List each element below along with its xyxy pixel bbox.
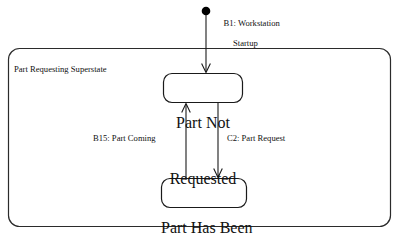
initial-state-dot	[202, 7, 211, 16]
state-diagram: B1: Workstation Startup Part Requesting …	[0, 0, 407, 239]
state-part-has-been-requested-line1: Part Has Been	[161, 219, 247, 238]
state-part-has-been-requested-label: Part Has Been Requested	[161, 181, 247, 239]
initial-transition-label: B1: Workstation Startup	[215, 8, 280, 69]
transition-c2-label: C2: Part Request	[227, 133, 285, 143]
initial-transition-label-line1: B1: Workstation	[224, 18, 280, 28]
state-part-not-requested-line1: Part Not	[163, 114, 243, 133]
superstate-label: Part Requesting Superstate	[14, 64, 107, 74]
initial-transition-label-line2: Startup	[215, 38, 280, 48]
transition-b15-label: B15: Part Coming	[93, 133, 156, 143]
